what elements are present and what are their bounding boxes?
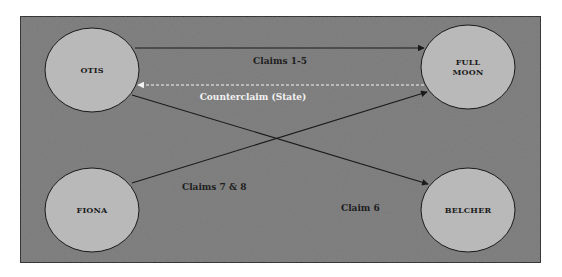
node-fiona: FIONA	[45, 168, 139, 252]
node-fiona-label: FIONA	[77, 205, 109, 215]
node-full-moon-label-line1: FULL	[456, 57, 481, 67]
edge-label-claims-7-8: Claims 7 & 8	[182, 182, 246, 192]
node-belcher: BELCHER	[421, 168, 515, 252]
edge-label-counterclaim: Counterclaim (State)	[200, 92, 307, 102]
edge-label-claim-6: Claim 6	[341, 203, 380, 213]
node-belcher-label: BELCHER	[445, 205, 492, 215]
edge-label-claims-1-5: Claims 1-5	[253, 56, 307, 66]
node-full-moon: FULL MOON	[421, 25, 515, 109]
node-full-moon-label-line2: MOON	[453, 67, 484, 77]
node-otis-label: OTIS	[80, 65, 103, 75]
claims-relationship-diagram: Claims 1-5 Counterclaim (State) Claims 7…	[0, 0, 562, 277]
node-otis: OTIS	[45, 28, 139, 112]
